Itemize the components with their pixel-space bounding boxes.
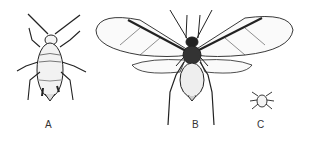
specimen-label-a: A [45, 119, 52, 130]
aphid-illustration: A B C [0, 0, 321, 141]
specimen-label-b: B [192, 119, 199, 130]
aphid-c-drawing [250, 92, 274, 109]
specimen-label-c: C [257, 119, 264, 130]
aphid-b-drawing [96, 10, 293, 125]
aphid-a-drawing [17, 14, 86, 101]
